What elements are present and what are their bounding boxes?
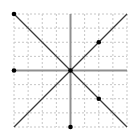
data-point: [12, 68, 17, 73]
data-point: [68, 68, 73, 73]
data-point: [68, 125, 73, 130]
scatter-plot-figure: [0, 0, 136, 136]
data-point: [12, 12, 17, 17]
data-point: [96, 96, 101, 101]
data-point: [96, 40, 101, 45]
plot-canvas: [0, 0, 136, 136]
